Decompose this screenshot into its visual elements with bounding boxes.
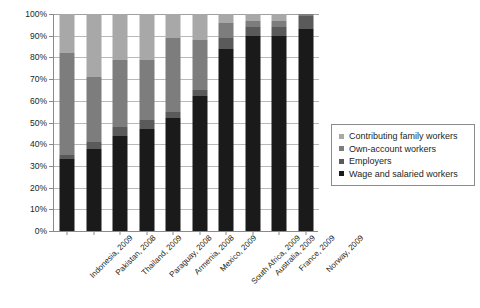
y-axis-tick-label: 60% [0,97,47,106]
y-axis-tick-label: 80% [0,53,47,62]
bar-segment [86,77,101,142]
bar-segment [113,136,128,231]
bar-segment [113,60,128,127]
y-axis-tick-mark [49,57,53,58]
legend-item-label: Own-account workers [349,144,436,154]
bar-segment [86,149,101,231]
stacked-bar[interactable] [60,14,75,231]
bar-slot [187,14,214,231]
bar-segment [86,14,101,77]
legend-item[interactable]: Employers [339,156,469,167]
y-axis-tick-label: 30% [0,162,47,171]
legend-item-label: Contributing family workers [349,131,458,141]
legend-item-label: Wage and salaried workers [349,169,458,179]
bar-segment [166,118,181,231]
y-axis-tick-label: 90% [0,32,47,41]
y-axis-tick-mark [49,36,53,37]
y-axis-tick-label: 40% [0,140,47,149]
y-axis-tick-label: 20% [0,184,47,193]
y-axis-tick-label: 10% [0,205,47,214]
bar-segment [192,40,207,90]
bar-segment [298,29,313,231]
legend-swatch-icon [339,171,344,176]
bar-segment [245,36,260,231]
bar-segment [139,60,154,121]
bar-segment [113,127,128,136]
stacked-bar[interactable] [113,14,128,231]
y-axis-tick-mark [49,188,53,189]
stacked-bar[interactable] [298,14,313,231]
stacked-bar[interactable] [245,14,260,231]
bar-segment [60,159,75,231]
y-axis-tick-label: 70% [0,75,47,84]
bar-segment [219,23,234,38]
y-axis-tick-label: 100% [0,10,47,19]
bar-slot [134,14,161,231]
bar-slot [266,14,293,231]
bar-segment [219,14,234,23]
plot-area [53,14,318,232]
y-axis-tick-mark [49,209,53,210]
bar-segment [298,16,313,29]
bar-segment [245,27,260,36]
bar-segment [272,36,287,231]
bar-segment [166,14,181,38]
bar-slot [54,14,81,231]
legend-item[interactable]: Own-account workers [339,143,469,154]
stacked-bar-chart: 0%10%20%30%40%50%60%70%80%90%100% Indone… [0,0,480,308]
stacked-bar[interactable] [86,14,101,231]
bar-segment [113,14,128,60]
y-axis-tick-label: 50% [0,119,47,128]
bar-slot [160,14,187,231]
y-axis-tick-mark [49,101,53,102]
bar-segment [139,120,154,129]
bar-segment [192,14,207,40]
bar-slot [240,14,267,231]
legend-item[interactable]: Wage and salaried workers [339,168,469,179]
y-axis-tick-mark [49,166,53,167]
y-axis-tick-mark [49,14,53,15]
bar-slot [107,14,134,231]
legend-swatch-icon [339,134,344,139]
y-axis-tick-mark [49,144,53,145]
bar-segment [192,96,207,231]
bar-segment [166,38,181,112]
y-axis-tick-mark [49,231,53,232]
bar-segment [219,38,234,49]
legend-item[interactable]: Contributing family workers [339,131,469,142]
bar-segment [60,14,75,53]
bar-slot [213,14,240,231]
legend-item-label: Employers [349,156,392,166]
y-axis-tick-mark [49,123,53,124]
bar-segment [219,49,234,231]
bar-segment [139,129,154,231]
chart-legend: Contributing family workersOwn-account w… [331,124,475,186]
y-axis-tick-label: 0% [0,227,47,236]
bar-segment [272,27,287,36]
bar-segment [139,14,154,60]
stacked-bar[interactable] [166,14,181,231]
bar-group [54,14,319,231]
stacked-bar[interactable] [139,14,154,231]
bar-segment [60,53,75,155]
y-axis-tick-mark [49,79,53,80]
x-axis-labels: Indonesia, 2009Pakistan, 2008Thailand, 2… [53,234,318,308]
stacked-bar[interactable] [192,14,207,231]
bar-slot [81,14,108,231]
legend-swatch-icon [339,146,344,151]
legend-swatch-icon [339,159,344,164]
stacked-bar[interactable] [272,14,287,231]
bar-slot [293,14,320,231]
stacked-bar[interactable] [219,14,234,231]
